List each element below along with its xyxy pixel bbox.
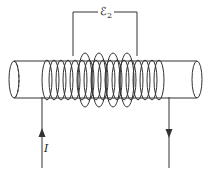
- primary-solenoid: [42, 60, 164, 100]
- current-leads: [42, 97, 169, 168]
- current-arrow-up-icon: [39, 128, 46, 137]
- solenoid-diagram: [0, 0, 214, 178]
- emf-label: ℰ2: [98, 5, 114, 20]
- emf-symbol: ℰ: [100, 5, 107, 18]
- emf-subscript: 2: [107, 11, 112, 20]
- current-label: I: [44, 142, 48, 155]
- current-arrow-down-icon: [166, 129, 173, 138]
